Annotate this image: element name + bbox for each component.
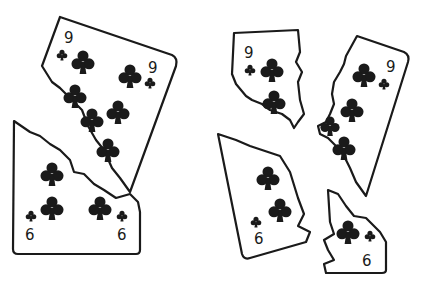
six-rank-left: 6 (254, 230, 264, 248)
six-of-clubs-right-piece: 6 (324, 190, 386, 273)
six-rank-right: 6 (362, 252, 372, 270)
nine-rank-top: 9 (64, 29, 74, 47)
six-of-clubs-left-piece: 6 (218, 134, 310, 259)
nine-of-clubs-left-piece: 9 (232, 30, 304, 128)
six-rank-right: 6 (117, 226, 127, 244)
torn-cards-illustration: 9 9 6 6 9 9 (0, 0, 425, 290)
nine-of-clubs-right-piece: 9 (318, 36, 409, 196)
six-rank-left: 6 (25, 226, 35, 244)
nine-rank-top: 9 (244, 44, 254, 62)
nine-rank-right: 9 (386, 58, 396, 76)
nine-rank-right: 9 (148, 59, 158, 77)
